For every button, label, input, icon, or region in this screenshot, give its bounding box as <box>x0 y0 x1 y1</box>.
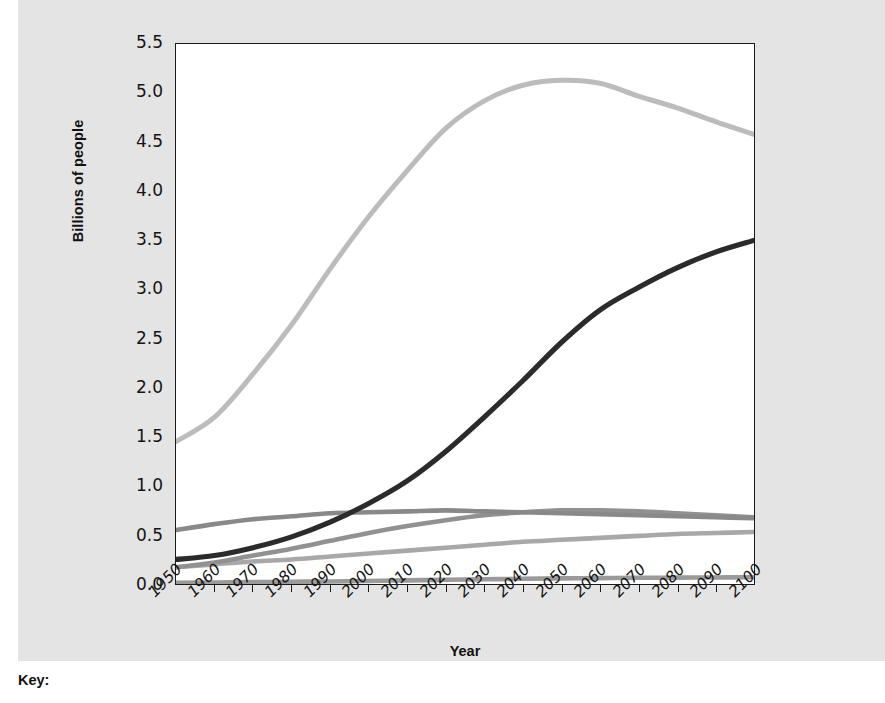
y-axis-tick-label: 1.0 <box>117 475 163 495</box>
y-axis-tick-label: 5.5 <box>117 32 163 52</box>
series-line-north-america <box>176 532 754 567</box>
y-axis-tick-label: 0.5 <box>117 525 163 545</box>
y-axis-tick-label: 3.0 <box>117 278 163 298</box>
y-axis-tick-label: 2.5 <box>117 328 163 348</box>
line-chart-svg <box>176 44 754 584</box>
y-axis-tick-label: 4.0 <box>117 180 163 200</box>
plot-area <box>175 43 755 585</box>
x-axis-title: Year <box>175 643 755 659</box>
y-axis-tick-label: 2.0 <box>117 377 163 397</box>
y-axis-tick-label: 3.5 <box>117 229 163 249</box>
key-title: Key: <box>18 672 618 688</box>
y-axis-title: Billions of people <box>70 56 86 306</box>
y-axis-tick-label: 1.5 <box>117 426 163 446</box>
series-line-asia <box>176 80 754 441</box>
key-section: Key: <box>18 672 618 688</box>
figure-panel: Billions of people 0.00.51.01.52.02.53.0… <box>18 0 885 661</box>
y-axis-tick-labels: 0.00.51.01.52.02.53.03.54.04.55.05.5 <box>117 43 163 585</box>
y-axis-tick-label: 5.0 <box>117 81 163 101</box>
y-axis-tick-label: 4.5 <box>117 131 163 151</box>
x-axis-tick-labels: 1950196019701980199020002010202020302040… <box>175 588 755 648</box>
